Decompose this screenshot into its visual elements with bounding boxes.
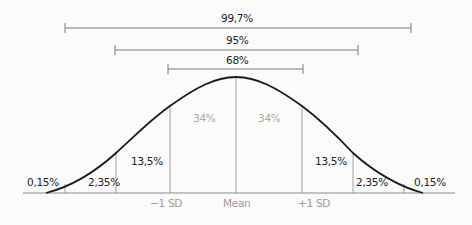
bracket-label-99-7: 99,7% (221, 12, 253, 24)
axis-label-minus-1sd: −1 SD (150, 197, 182, 209)
region-label-right-1sd: 13,5% (315, 155, 347, 167)
region-label-left-1sd: 13,5% (131, 155, 163, 167)
brackets (65, 23, 411, 74)
region-label-left-tail: 0,15% (27, 176, 59, 188)
region-label-left-center: 34% (193, 112, 215, 124)
bracket-label-95: 95% (226, 34, 248, 46)
axis-label-plus-1sd: +1 SD (298, 197, 330, 209)
bracket-label-68: 68% (226, 54, 248, 66)
region-label-right-center: 34% (258, 112, 280, 124)
region-label-right-tail: 0,15% (414, 176, 446, 188)
axis-label-mean: Mean (223, 197, 250, 209)
region-label-left-2sd: 2,35% (88, 176, 120, 188)
region-label-right-2sd: 2,35% (356, 176, 388, 188)
